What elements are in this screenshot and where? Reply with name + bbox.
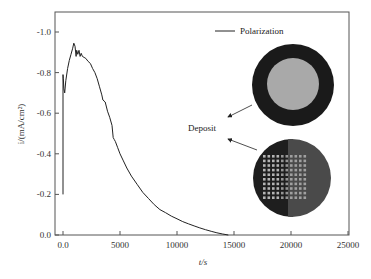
deposit-dot xyxy=(304,183,307,186)
y-tick-label: -1.0 xyxy=(37,27,52,37)
deposit-dot xyxy=(272,164,275,167)
deposit-dot xyxy=(295,192,298,195)
deposit-dot xyxy=(281,196,284,199)
y-axis-label: i/(mA/cm²) xyxy=(16,104,26,145)
deposit-dot xyxy=(286,155,289,158)
x-tick-label: 15000 xyxy=(223,240,246,250)
deposit-annotation: Deposit xyxy=(188,105,257,150)
deposit-dot xyxy=(286,169,289,172)
deposit-dot xyxy=(263,160,266,163)
deposit-dot xyxy=(286,160,289,163)
deposit-dot xyxy=(290,196,293,199)
deposit-dot xyxy=(299,192,302,195)
deposit-dot xyxy=(268,196,271,199)
deposit-dot xyxy=(281,169,284,172)
x-axis-label: t/s xyxy=(199,257,208,267)
deposit-dot xyxy=(272,155,275,158)
x-tick-label: 10000 xyxy=(166,240,189,250)
deposit-dot xyxy=(263,196,266,199)
deposit-dot xyxy=(281,173,284,176)
deposit-dot xyxy=(304,169,307,172)
deposit-dot xyxy=(277,196,280,199)
deposit-dot xyxy=(268,173,271,176)
sample-substrate-image xyxy=(252,44,334,126)
deposit-dot xyxy=(277,192,280,195)
deposit-dot xyxy=(295,160,298,163)
x-tick-label: 20000 xyxy=(280,240,303,250)
deposit-dot xyxy=(272,187,275,190)
deposit-dot xyxy=(299,160,302,163)
deposit-dot xyxy=(272,183,275,186)
deposit-dot xyxy=(272,169,275,172)
deposit-dot xyxy=(304,160,307,163)
deposit-dot xyxy=(286,183,289,186)
deposit-dot xyxy=(304,192,307,195)
deposit-dot xyxy=(290,169,293,172)
deposit-dot xyxy=(304,196,307,199)
deposit-dot xyxy=(272,173,275,176)
polarization-line xyxy=(63,43,228,235)
deposit-dot xyxy=(299,164,302,167)
x-axis: 0.0500010000150002000025000 xyxy=(57,231,359,250)
deposit-dot xyxy=(281,178,284,181)
chart: 0.0500010000150002000025000 0.0-0.2-0.4-… xyxy=(0,0,371,279)
deposit-dot xyxy=(281,183,284,186)
arrow-to-substrate xyxy=(228,105,252,117)
y-axis: 0.0-0.2-0.4-0.6-0.8-1.0 xyxy=(37,27,59,240)
deposit-dot xyxy=(286,178,289,181)
deposit-dot xyxy=(263,164,266,167)
deposit-dot xyxy=(263,173,266,176)
deposit-dot xyxy=(268,160,271,163)
deposit-dot xyxy=(281,155,284,158)
deposit-dot xyxy=(295,196,298,199)
deposit-dot xyxy=(290,178,293,181)
deposit-dot xyxy=(277,155,280,158)
y-tick-label: -0.2 xyxy=(37,189,51,199)
deposit-dot xyxy=(277,169,280,172)
deposit-dot xyxy=(299,173,302,176)
deposit-dot xyxy=(290,192,293,195)
deposit-dot xyxy=(304,155,307,158)
deposit-dot xyxy=(281,192,284,195)
deposit-dot xyxy=(290,183,293,186)
deposit-dot xyxy=(268,183,271,186)
deposit-dot xyxy=(299,178,302,181)
y-tick-label: 0.0 xyxy=(40,230,52,240)
deposit-dot xyxy=(286,187,289,190)
deposit-dot xyxy=(277,164,280,167)
deposit-dot xyxy=(281,187,284,190)
deposit-dot xyxy=(286,173,289,176)
deposit-dot xyxy=(286,164,289,167)
deposit-dot xyxy=(295,155,298,158)
deposit-dot xyxy=(295,178,298,181)
deposit-dot xyxy=(268,155,271,158)
deposit-dot xyxy=(272,178,275,181)
deposit-dot xyxy=(299,196,302,199)
deposit-dot xyxy=(272,192,275,195)
deposit-dot xyxy=(286,192,289,195)
deposit-dot xyxy=(295,183,298,186)
deposit-label: Deposit xyxy=(188,123,216,133)
deposit-dot xyxy=(263,169,266,172)
deposit-dot xyxy=(277,187,280,190)
legend-label: Polarization xyxy=(240,26,284,36)
deposit-dot xyxy=(277,178,280,181)
deposit-dot xyxy=(268,169,271,172)
deposit-dot xyxy=(286,196,289,199)
deposit-dot xyxy=(281,160,284,163)
x-tick-label: 5000 xyxy=(111,240,130,250)
deposit-dot xyxy=(268,178,271,181)
deposit-dot xyxy=(263,192,266,195)
y-tick-label: -0.6 xyxy=(37,108,52,118)
deposit-dot xyxy=(295,169,298,172)
deposit-dot xyxy=(290,155,293,158)
deposit-dot xyxy=(299,155,302,158)
deposit-dot xyxy=(295,187,298,190)
deposit-dot xyxy=(272,196,275,199)
sample-deposit-array-image xyxy=(250,138,334,220)
x-tick-label: 25000 xyxy=(337,240,360,250)
deposit-dot xyxy=(304,178,307,181)
x-tick-label: 0.0 xyxy=(57,240,69,250)
deposit-dot xyxy=(295,173,298,176)
deposit-dot xyxy=(290,187,293,190)
